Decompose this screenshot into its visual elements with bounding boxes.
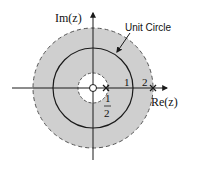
tick-label-half-denominator: 2 [104,107,110,119]
tick-label-one: 1 [124,76,130,88]
z-plane-diagram: Im(z) Unit Circle Re(z) 1 2 1 2 [0,0,200,171]
unit-circle-label: Unit Circle [125,22,172,33]
tick-label-half-numerator: 1 [105,92,111,104]
imag-axis-label: Im(z) [55,11,82,25]
real-axis-label: Re(z) [151,95,178,109]
zero-marker [90,85,97,92]
tick-label-two: 2 [142,76,148,88]
